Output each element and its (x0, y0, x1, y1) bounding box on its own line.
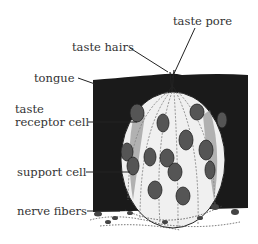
label-nerve-fibers: nerve fibers (17, 205, 87, 217)
label-taste-pore: taste pore (173, 15, 232, 27)
label-support-cell: support cell (17, 166, 86, 178)
label-taste-hairs: taste hairs (72, 41, 134, 53)
label-tongue: tongue (34, 72, 75, 84)
label-taste-receptor-cell-line2: receptor cell (15, 116, 89, 128)
label-taste-receptor-cell-line1: taste (15, 103, 44, 115)
